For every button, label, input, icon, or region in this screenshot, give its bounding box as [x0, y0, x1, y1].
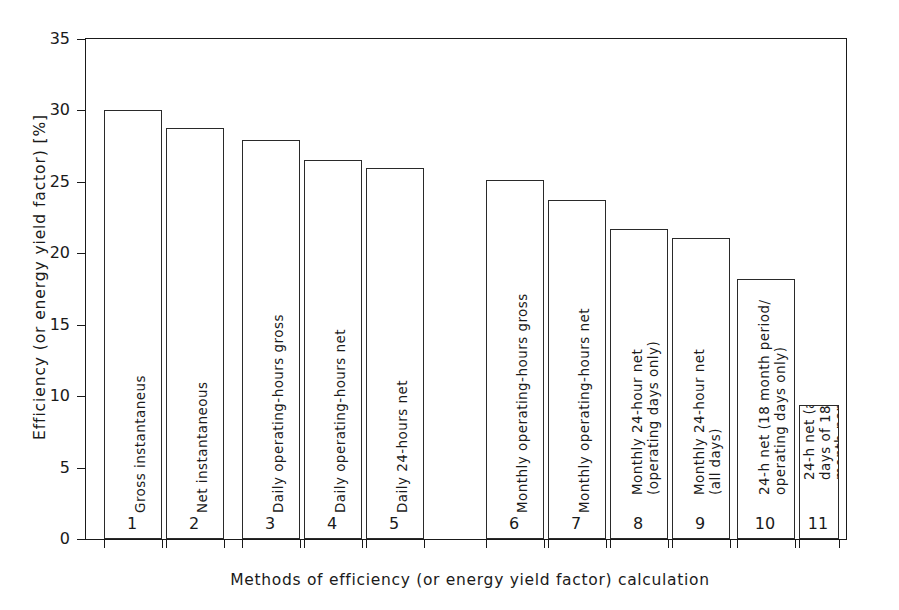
bar-1[interactable]: Gross instantaneus	[104, 110, 162, 539]
x-axis-tick	[544, 539, 545, 548]
y-axis-tick: 0	[77, 539, 86, 540]
y-axis-tick: 35	[77, 39, 86, 40]
x-axis-tick-label-8: 8	[618, 514, 658, 533]
bar-label-line: month period)	[833, 405, 839, 480]
y-axis-tick: 20	[77, 253, 86, 254]
x-axis-tick	[730, 539, 731, 548]
y-axis-tick: 30	[77, 110, 86, 111]
x-axis-tick	[668, 539, 669, 548]
bar-4[interactable]: Daily operating-hours net	[304, 160, 362, 539]
bar-label-line: Monthly operating-hours net	[577, 308, 593, 513]
x-axis-tick-label-7: 7	[556, 514, 596, 533]
bar-label-line: Daily operating-hours gross	[271, 314, 287, 513]
bar-label-line: Daily 24-hours net	[395, 379, 411, 512]
y-axis-tick-label: 30	[50, 100, 70, 120]
bar-label-8: Monthly 24-hour net(operating days only)	[630, 341, 661, 495]
y-axis-tick-label: 20	[50, 243, 70, 263]
bar-9[interactable]: Monthly 24-hour net(all days)	[672, 238, 730, 539]
y-axis-tick-label: 15	[50, 315, 70, 335]
plot-area: 05101520253035Gross instantaneusNet inst…	[85, 38, 847, 540]
x-axis-tick	[799, 539, 800, 548]
bar-label-line: (all days)	[708, 349, 724, 495]
bar-label-2: Net instantaneous	[195, 381, 211, 512]
x-axis-title: Methods of efficiency (or energy yield f…	[90, 571, 850, 589]
y-axis-tick: 25	[77, 182, 86, 183]
x-axis-tick	[166, 539, 167, 548]
x-axis-tick	[486, 539, 487, 548]
bar-7[interactable]: Monthly operating-hours net	[548, 200, 606, 539]
x-axis-tick-label-1: 1	[112, 514, 152, 533]
y-axis-tick-label: 35	[50, 29, 70, 49]
y-axis-tick: 5	[77, 468, 86, 469]
bar-label-line: operating days only)	[773, 300, 789, 495]
x-axis-tick-label-10: 10	[745, 514, 785, 533]
bar-10[interactable]: 24-h net (18 month period/operating days…	[737, 279, 795, 539]
bar-label-1: Gross instantaneus	[133, 375, 149, 513]
x-axis-tick-label-3: 3	[250, 514, 290, 533]
bar-8[interactable]: Monthly 24-hour net(operating days only)	[610, 229, 668, 539]
x-axis-tick-label-2: 2	[174, 514, 214, 533]
y-axis-tick-label: 10	[50, 386, 70, 406]
y-axis-tick: 15	[77, 325, 86, 326]
bar-label-4: Daily operating-hours net	[333, 328, 349, 512]
x-axis-tick	[304, 539, 305, 548]
x-axis-tick	[606, 539, 607, 548]
x-axis-tick	[424, 539, 425, 548]
x-axis-tick-label-6: 6	[494, 514, 534, 533]
x-axis-tick-label-11: 11	[798, 514, 838, 533]
bar-3[interactable]: Daily operating-hours gross	[242, 140, 300, 539]
bar-5[interactable]: Daily 24-hours net	[366, 168, 424, 539]
bar-label-6: Monthly operating-hours gross	[515, 293, 531, 513]
x-axis-tick	[672, 539, 673, 548]
x-axis-tick	[795, 539, 796, 548]
bar-label-line: Net instantaneous	[195, 381, 211, 512]
x-axis-tick	[104, 539, 105, 548]
y-axis-title: Efficiency (or energy yield factor) [%]	[31, 27, 49, 527]
bar-label-line: Monthly operating-hours gross	[515, 293, 531, 513]
y-axis-tick-label: 5	[60, 458, 70, 478]
bar-6[interactable]: Monthly operating-hours gross	[486, 180, 544, 539]
x-axis-tick	[362, 539, 363, 548]
y-axis-tick: 10	[77, 396, 86, 397]
bar-label-line: Gross instantaneus	[133, 375, 149, 513]
x-axis-tick	[162, 539, 163, 548]
bar-chart-figure: Efficiency (or energy yield factor) [%] …	[0, 0, 899, 610]
bar-label-line: 24-h net (18 month period/	[757, 300, 773, 495]
y-axis-tick-label: 25	[50, 172, 70, 192]
bar-label-line: Monthly 24-hour net	[692, 349, 708, 495]
bar-label-5: Daily 24-hours net	[395, 379, 411, 512]
bar-label-9: Monthly 24-hour net(all days)	[692, 349, 723, 495]
bar-label-line: 24-h net (all	[802, 405, 818, 480]
bar-label-10: 24-h net (18 month period/operating days…	[757, 300, 788, 495]
x-axis-tick-label-5: 5	[374, 514, 414, 533]
bar-label-11: 24-h net (alldays of 18month period)	[802, 405, 839, 480]
x-axis-tick	[839, 539, 840, 548]
x-axis-tick	[548, 539, 549, 548]
bar-2[interactable]: Net instantaneous	[166, 128, 224, 539]
bar-label-line: (operating days only)	[646, 341, 662, 495]
x-axis-tick	[366, 539, 367, 548]
y-axis-tick-label: 0	[60, 529, 70, 549]
x-axis-tick	[300, 539, 301, 548]
bar-label-3: Daily operating-hours gross	[271, 314, 287, 513]
bar-label-line: Monthly 24-hour net	[630, 341, 646, 495]
x-axis-tick	[737, 539, 738, 548]
bar-label-line: Daily operating-hours net	[333, 328, 349, 512]
bar-label-7: Monthly operating-hours net	[577, 308, 593, 513]
x-axis-tick-label-4: 4	[312, 514, 352, 533]
x-axis-tick	[610, 539, 611, 548]
x-axis-tick	[224, 539, 225, 548]
x-axis-tick	[242, 539, 243, 548]
bar-label-line: days of 18	[818, 405, 834, 480]
x-axis-tick-label-9: 9	[680, 514, 720, 533]
